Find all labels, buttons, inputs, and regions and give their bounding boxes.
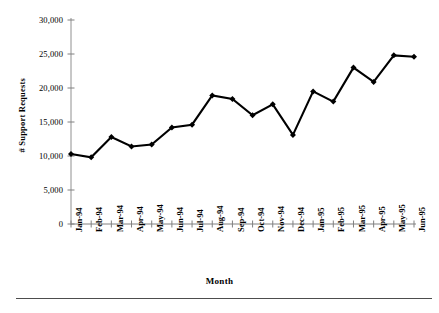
x-axis-tick-label: Jan-94 xyxy=(74,207,84,232)
plot-area xyxy=(0,0,439,313)
y-axis-tick-label: 15,000 xyxy=(23,117,63,127)
y-axis-tick-label: 0 xyxy=(23,219,63,229)
x-axis-tick-label: Aug-94 xyxy=(215,206,225,232)
y-axis xyxy=(68,18,75,225)
y-axis-tick-label: 5,000 xyxy=(23,185,63,195)
x-axis-tick-label: Jul-94 xyxy=(195,209,205,232)
x-axis-tick-label: Nov-94 xyxy=(276,206,286,232)
x-axis-tick-label: May-95 xyxy=(397,204,407,232)
x-axis-tick-label: Feb-94 xyxy=(94,207,104,232)
y-axis-tick-label: 25,000 xyxy=(23,49,63,59)
x-axis-tick-label: Jan-95 xyxy=(316,207,326,232)
x-axis-tick-label: Mar-95 xyxy=(357,205,367,232)
y-axis-tick-label: 10,000 xyxy=(23,151,63,161)
x-axis-tick-label: Feb-95 xyxy=(336,207,346,232)
support-requests-line-chart: # Support Requests 05,00010,00015,00020,… xyxy=(0,0,439,313)
x-axis-tick-label: Apr-94 xyxy=(135,206,145,232)
x-axis-tick-label: May-94 xyxy=(155,204,165,232)
x-axis-tick-label: Jun-94 xyxy=(175,207,185,232)
footer-divider xyxy=(16,298,432,299)
x-axis-title: Month xyxy=(0,276,439,286)
series-line-support-requests xyxy=(71,55,414,157)
x-axis-tick-label: Apr-95 xyxy=(377,206,387,232)
x-axis-tick-label: Mar-94 xyxy=(115,205,125,232)
x-axis-tick-label: Sep-94 xyxy=(236,207,246,232)
x-axis-tick-label: Dec-94 xyxy=(296,207,306,232)
x-axis-tick-label: Jun-95 xyxy=(417,207,427,232)
data-point-marker xyxy=(411,54,417,60)
y-axis-tick-label: 20,000 xyxy=(23,83,63,93)
y-axis-tick-label: 30,000 xyxy=(23,15,63,25)
x-axis-tick-label: Oct-94 xyxy=(256,207,266,232)
